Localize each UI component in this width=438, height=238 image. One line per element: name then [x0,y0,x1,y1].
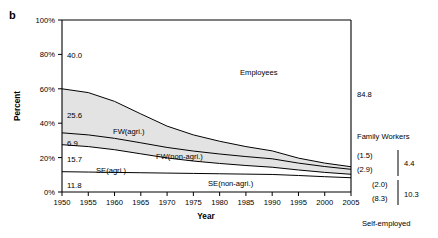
x-tick-label: 1960 [106,198,123,207]
y-tick-label: 100% [36,16,56,25]
y-tick-label: 0% [44,188,55,197]
x-tick-label: 1985 [237,198,254,207]
group-label-family-workers: Family Workers [357,132,410,141]
x-axis-title: Year [197,212,215,221]
group-total-family-workers: 4.4 [404,159,415,168]
right-value-se-agri: (2.0) [372,180,388,189]
right-value-fw-agri: (1.5) [357,151,373,160]
right-value-fw-non-agri: (2.9) [357,165,373,174]
x-tick-label: 1995 [290,198,307,207]
series-label-fw-non-agri: FW(non-agri.) [156,152,203,161]
stacked-area-chart: 0%20%40%60%80%100% 195019551960196519701… [0,0,438,238]
x-axis-tick-labels: 1950195519601965197019751980198519901995… [54,198,360,207]
x-tick-label: 1965 [132,198,149,207]
y-tick-label: 20% [40,154,55,163]
x-tick-label: 1990 [264,198,281,207]
series-label-se-non-agri: SE(non-agri.) [208,179,254,188]
group-label-self-employed: Self-employed [362,219,411,228]
left-value-employees: 40.0 [67,51,83,60]
right-value-employees: 84.8 [357,90,372,99]
y-axis-ticks [58,20,62,192]
series-label-employees: Employees [240,68,278,77]
series-label-fw-agri: FW(agri.) [113,127,145,136]
y-axis-title: Percent [13,91,22,121]
right-value-se-non-agri: (8.3) [372,194,388,203]
left-value-se-non-agri: 11.8 [67,181,82,190]
x-tick-label: 1980 [211,198,228,207]
figure-panel-b: b 0%20%40%60%80%100% 1950195519601965197… [0,0,438,238]
x-tick-label: 1950 [54,198,71,207]
x-tick-label: 1955 [80,198,97,207]
y-axis-tick-labels: 0%20%40%60%80%100% [36,16,56,197]
left-value-fw-agri: 25.6 [67,111,82,120]
x-axis-ticks [62,192,351,196]
series-label-se-agri: SE(agri.) [96,166,126,175]
x-tick-label: 1975 [185,198,202,207]
y-tick-label: 60% [40,85,55,94]
group-total-self-employed: 10.3 [404,190,419,199]
left-value-se-agri: 15.7 [67,155,82,164]
y-tick-label: 80% [40,50,55,59]
y-tick-label: 40% [40,119,55,128]
x-tick-label: 1970 [159,198,176,207]
left-value-fw-non-agri: 6.9 [67,139,78,148]
x-tick-label: 2000 [316,198,333,207]
x-tick-label: 2005 [343,198,360,207]
